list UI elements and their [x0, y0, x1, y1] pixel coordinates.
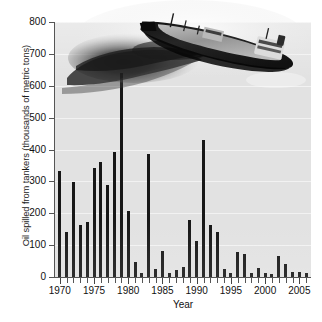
bar [223, 269, 226, 277]
y-axis-tick [49, 54, 55, 55]
bar [236, 252, 239, 278]
bar [93, 168, 96, 277]
y-axis-tick-label: 700 [18, 48, 46, 59]
y-gridline [55, 22, 311, 23]
x-axis-minor-tick [251, 278, 252, 283]
y-axis-tick [49, 277, 55, 278]
y-axis-tick-label: 200 [18, 207, 46, 218]
y-gridline [55, 150, 311, 151]
x-axis-minor-tick [176, 278, 177, 283]
x-axis-minor-tick [169, 278, 170, 283]
bar [65, 232, 68, 277]
plot-area [55, 22, 311, 277]
y-axis-tick-label: 300 [18, 175, 46, 186]
bar [58, 171, 61, 277]
x-axis-minor-tick [286, 278, 287, 283]
y-axis-tick [49, 118, 55, 119]
bar [120, 73, 123, 277]
bar [243, 254, 246, 277]
x-axis-major-tick [128, 278, 129, 284]
bar [154, 269, 157, 277]
x-axis-minor-tick [135, 278, 136, 283]
y-axis-tick-label: 100 [18, 239, 46, 250]
x-axis-minor-tick [204, 278, 205, 283]
x-axis-minor-tick [224, 278, 225, 283]
bar [79, 225, 82, 277]
x-axis-minor-tick [272, 278, 273, 283]
y-axis-tick-label: 600 [18, 80, 46, 91]
y-axis-tick-label: 400 [18, 144, 46, 155]
x-axis-major-tick [162, 278, 163, 284]
x-axis-title: Year [55, 299, 311, 310]
x-axis-minor-tick [108, 278, 109, 283]
x-axis-minor-tick [293, 278, 294, 283]
bar [188, 220, 191, 277]
bar [284, 264, 287, 277]
x-axis-minor-tick [258, 278, 259, 283]
y-axis-tick [49, 86, 55, 87]
x-axis-minor-tick [306, 278, 307, 283]
x-axis-minor-tick [238, 278, 239, 283]
x-axis-minor-tick [121, 278, 122, 283]
y-gridline [55, 86, 311, 87]
bar [182, 267, 185, 277]
x-axis-minor-tick [245, 278, 246, 283]
bar [113, 152, 116, 277]
bar [99, 162, 102, 277]
x-axis-minor-tick [80, 278, 81, 283]
y-gridline [55, 118, 311, 119]
x-axis-minor-tick [115, 278, 116, 283]
y-axis-tick-label: 0 [18, 271, 46, 282]
bar [277, 256, 280, 277]
x-axis-minor-tick [149, 278, 150, 283]
bar [195, 241, 198, 277]
bar [147, 154, 150, 277]
x-axis-major-tick [231, 278, 232, 284]
x-axis-major-tick [60, 278, 61, 284]
x-axis-minor-tick [87, 278, 88, 283]
bar [209, 225, 212, 277]
x-axis-minor-tick [142, 278, 143, 283]
x-axis-major-tick [94, 278, 95, 284]
x-axis-tick-label: 2005 [279, 285, 319, 296]
y-axis-tick [49, 22, 55, 23]
bar [161, 251, 164, 277]
bar [72, 182, 75, 277]
bar [202, 140, 205, 277]
x-axis-minor-tick [217, 278, 218, 283]
y-axis-tick [49, 245, 55, 246]
bar [86, 222, 89, 277]
bar [106, 185, 109, 277]
x-axis-minor-tick [210, 278, 211, 283]
x-axis-minor-tick [156, 278, 157, 283]
x-axis-major-tick [265, 278, 266, 284]
x-axis-major-tick [197, 278, 198, 284]
bar [175, 270, 178, 277]
y-axis-tick-label: 500 [18, 112, 46, 123]
bar [134, 262, 137, 277]
x-axis-minor-tick [279, 278, 280, 283]
x-axis-minor-tick [183, 278, 184, 283]
bar [216, 232, 219, 277]
x-axis-minor-tick [67, 278, 68, 283]
y-axis-tick [49, 150, 55, 151]
x-axis-minor-tick [73, 278, 74, 283]
x-axis-minor-tick [101, 278, 102, 283]
y-axis-tick-label: 800 [18, 16, 46, 27]
y-axis-tick [49, 213, 55, 214]
y-gridline [55, 54, 311, 55]
bar [127, 211, 130, 277]
x-axis-major-tick [299, 278, 300, 284]
oil-spill-bar-chart-figure: Oil spilled from tankers (thousands of m… [0, 0, 322, 322]
y-axis-tick [49, 181, 55, 182]
x-axis-minor-tick [190, 278, 191, 283]
bar [257, 268, 260, 277]
